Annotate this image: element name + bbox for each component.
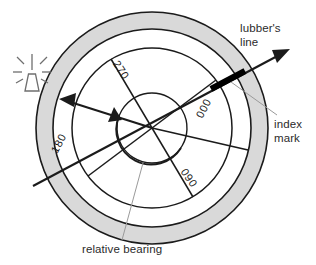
- beacon-ray-upright: [40, 57, 47, 64]
- beacon-ray-downleft: [16, 79, 23, 83]
- arrow-head-icon-bearing: [59, 93, 76, 107]
- relative-bearing-callout: relative bearing: [82, 243, 162, 257]
- index-mark-label-line1: index: [274, 118, 302, 132]
- lubbers-line-callout: lubber's line: [240, 22, 281, 49]
- index-mark-callout: index mark: [274, 118, 302, 145]
- diagram-canvas: 270 000 090 180 lubber's line i: [0, 0, 316, 265]
- beacon-tower: [25, 74, 39, 91]
- lubbers-line-label-line2: line: [240, 36, 281, 50]
- arrow-head-icon-lubbers: [272, 49, 290, 63]
- index-mark-label-line2: mark: [274, 132, 302, 146]
- beacon-ray-upleft: [17, 57, 24, 64]
- lubbers-line-label-line1: lubber's: [240, 22, 281, 36]
